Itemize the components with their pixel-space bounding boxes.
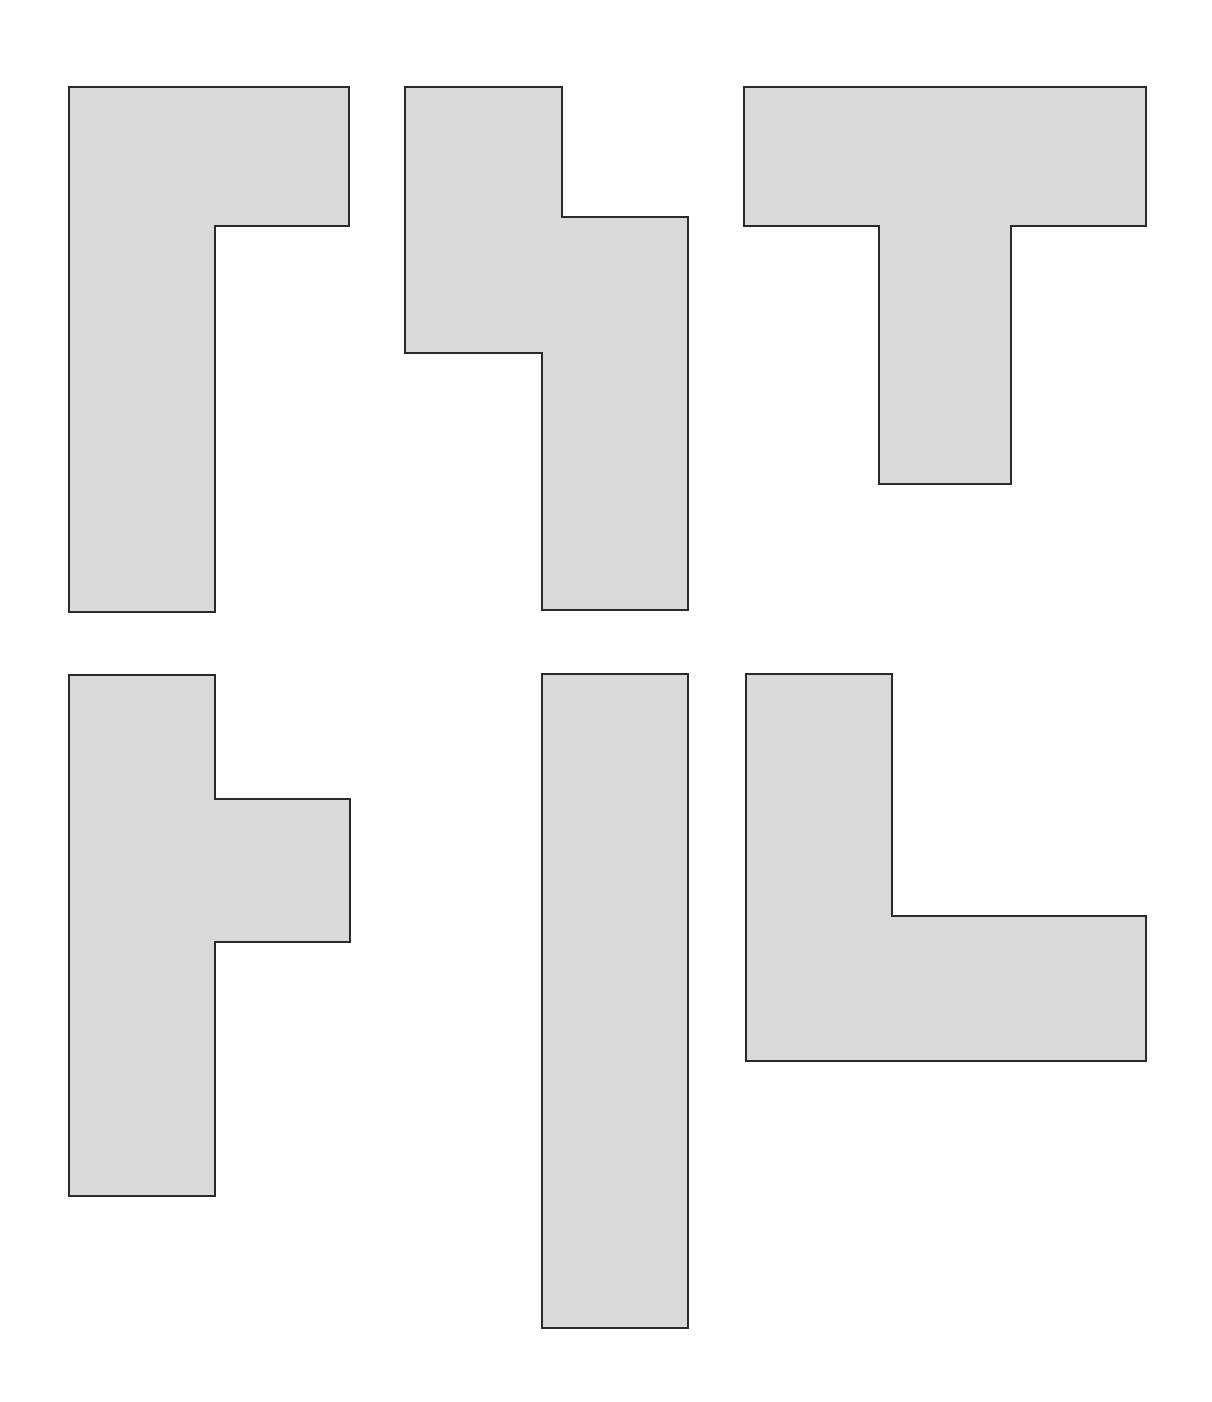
shapes-canvas [0,0,1212,1402]
shape-bar-bottom-middle [542,674,688,1328]
